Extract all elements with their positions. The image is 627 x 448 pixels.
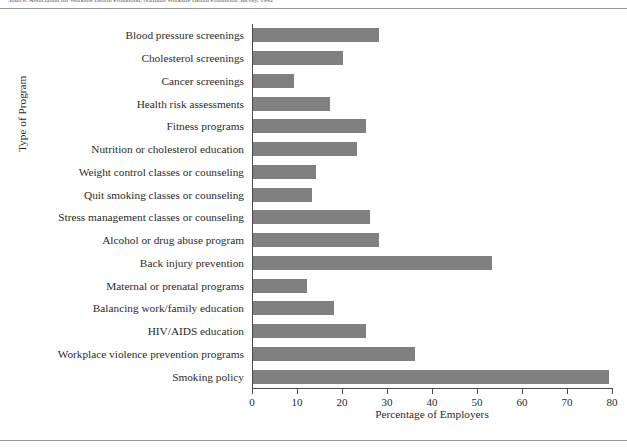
x-axis-tick-label: 80 [607,396,618,408]
plot-area: 01020304050607080 [252,24,612,388]
category-label: Weight control classes or counseling [79,165,248,179]
category-label: Stress management classes or counseling [58,210,248,224]
x-axis-tick [612,389,613,394]
bar [253,256,492,270]
bar [253,142,357,156]
x-axis-tick [342,389,343,394]
top-horizontal-rule [0,8,627,9]
x-axis-tick-label: 40 [427,396,438,408]
category-label: Maternal or prenatal programs [106,279,248,293]
category-label: Workplace violence prevention programs [58,347,248,361]
x-axis-tick-label: 70 [562,396,573,408]
source-caption: Source: Association for Worksite Health … [8,0,273,3]
bar [253,301,334,315]
bar [253,28,379,42]
x-axis-tick [252,389,253,394]
category-label: Back injury prevention [140,256,248,270]
category-label: Balancing work/family education [93,301,248,315]
x-axis-tick [477,389,478,394]
bar [253,370,609,384]
category-label: Quit smoking classes or counseling [84,188,248,202]
x-axis-tick-label: 50 [472,396,483,408]
bar [253,188,312,202]
category-label: Cholesterol screenings [141,51,248,65]
bar [253,165,316,179]
category-label: HIV/AIDS education [148,324,248,338]
bar [253,324,366,338]
source-caption-strip: Source: Association for Worksite Health … [0,0,627,7]
bottom-horizontal-rule [0,440,627,441]
x-axis-tick [432,389,433,394]
x-axis-tick [297,389,298,394]
x-axis-tick [522,389,523,394]
category-label: Blood pressure screenings [125,28,248,42]
x-axis-tick-label: 20 [337,396,348,408]
category-labels: Blood pressure screeningsCholesterol scr… [0,24,248,388]
x-axis-tick-label: 60 [517,396,528,408]
bar [253,51,343,65]
bar [253,279,307,293]
bar [253,233,379,247]
bar [253,74,294,88]
x-axis-tick-label: 0 [249,396,255,408]
bar [253,210,370,224]
bar [253,347,415,361]
category-label: Cancer screenings [162,74,249,88]
category-label: Fitness programs [166,119,248,133]
x-axis-tick [387,389,388,394]
x-axis-title: Percentage of Employers [252,408,612,420]
bar-chart-figure: Source: Association for Worksite Health … [0,0,627,448]
category-label: Alcohol or drug abuse program [102,233,248,247]
bar [253,97,330,111]
y-axis-title: Type of Program [16,76,28,152]
x-axis-tick [567,389,568,394]
bar [253,119,366,133]
x-axis-tick-label: 30 [382,396,393,408]
category-label: Smoking policy [172,370,248,384]
category-label: Nutrition or cholesterol education [91,142,248,156]
x-axis-tick-label: 10 [292,396,303,408]
category-label: Health risk assessments [137,97,248,111]
